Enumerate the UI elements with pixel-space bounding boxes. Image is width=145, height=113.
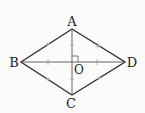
side-mark-bc <box>46 77 49 80</box>
side-mark-ab <box>46 42 49 45</box>
half-mark-oc <box>70 77 73 80</box>
label-o: O <box>74 63 84 77</box>
side-mark-ad <box>96 44 99 47</box>
label-a: A <box>66 14 77 29</box>
right-angle-mark <box>72 56 78 62</box>
label-b: B <box>9 55 19 70</box>
half-mark-ao <box>70 43 73 46</box>
label-c: C <box>66 96 76 111</box>
rhombus-diagram: A B C D O <box>0 0 145 113</box>
label-d: D <box>127 55 137 70</box>
side-mark-cd <box>97 76 100 79</box>
